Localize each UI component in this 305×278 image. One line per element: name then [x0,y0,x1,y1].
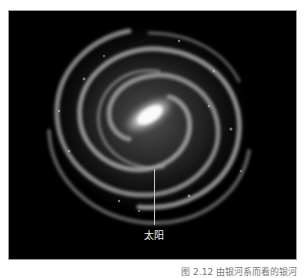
sun-marker-line [154,169,155,225]
galaxy-illustration [9,11,297,260]
figure-caption: 图 2.12 由银河系而看的银河 [181,266,297,278]
sun-label: 太阳 [9,230,296,242]
galaxy-image-frame: 太阳 [8,10,297,260]
